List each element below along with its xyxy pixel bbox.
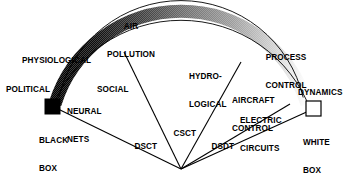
label-white-box: WHITE BOX [303, 120, 330, 179]
label-electric-circuits: ELECTRIC CIRCUITS [240, 98, 282, 172]
label-dynamics: DYNAMICS [298, 70, 342, 116]
label-social: SOCIAL [97, 67, 129, 113]
sector-label-dsdt: DSDT [202, 133, 234, 161]
fan-spectrum-diagram: AIR POLLUTION PHYSIOLOGICAL POLITICAL PR… [0, 0, 361, 179]
sector-label-dsct: DSCT [125, 133, 157, 161]
label-political: POLITICAL [6, 67, 50, 113]
label-black-box: BLACK BOX [39, 118, 68, 179]
sector-label-csct: CSCT [164, 120, 196, 148]
label-hydrological: HYDRO- LOGICAL [189, 54, 227, 128]
label-neural-nets: NEURAL NETS [67, 89, 102, 163]
